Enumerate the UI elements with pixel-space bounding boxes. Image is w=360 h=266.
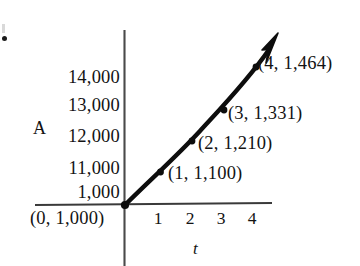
x-axis-tick-label: 1 — [149, 210, 167, 228]
data-point-marker — [157, 169, 164, 176]
data-point-label: (1, 1,100) — [168, 164, 242, 183]
data-point-label: (3, 1,331) — [228, 104, 302, 123]
y-axis-tick-label: 13,000 — [68, 96, 120, 115]
figure-container: 14,000 13,000 12,000 11,000 1,000 A t 1 … — [0, 0, 360, 266]
x-axis-label: t — [193, 240, 198, 257]
x-axis-tick-label: 4 — [243, 210, 261, 228]
y-axis-tick-label: 12,000 — [68, 127, 120, 146]
y-axis-tick-label: 11,000 — [69, 159, 120, 178]
data-point-label: (2, 1,210) — [198, 134, 272, 153]
data-point-marker — [189, 138, 196, 145]
data-point-marker — [221, 107, 228, 114]
x-axis-tick-label: 3 — [212, 210, 230, 228]
y-axis-label: A — [33, 119, 46, 137]
data-point-label: (0, 1,000) — [30, 209, 104, 228]
x-axis-tick-label: 2 — [181, 210, 199, 228]
y-axis-tick-label: 14,000 — [68, 68, 120, 87]
data-point-label: (4, 1,464) — [258, 54, 332, 73]
data-point-marker — [121, 201, 129, 209]
x-axis-line — [35, 203, 272, 205]
y-axis-tick-label: 1,000 — [77, 183, 120, 202]
